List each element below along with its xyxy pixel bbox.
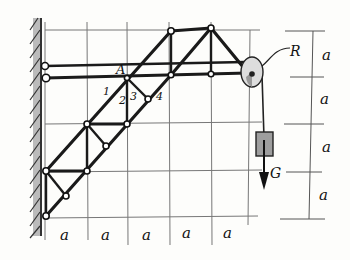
label-member-2: 2 (118, 94, 126, 107)
svg-text:a: a (223, 224, 232, 242)
label-pulley-R: R (289, 43, 301, 59)
svg-text:a: a (101, 226, 110, 244)
label-node-A: A (115, 62, 125, 77)
svg-text:a: a (182, 224, 191, 242)
svg-text:a: a (322, 46, 331, 64)
svg-text:a: a (322, 138, 331, 156)
truss-diagram: A 1 2 3 4 R G a a a a a a a a a (0, 0, 350, 260)
label-member-1: 1 (103, 85, 110, 98)
svg-text:a: a (60, 226, 69, 244)
svg-text:a: a (320, 90, 329, 108)
horizontal-dimensions: a a a a a (60, 224, 232, 244)
label-weight-G: G (270, 165, 281, 181)
wall (30, 18, 41, 238)
label-member-4: 4 (155, 90, 163, 103)
label-member-3: 3 (130, 90, 137, 103)
svg-text:a: a (319, 186, 328, 204)
diagram-canvas: A 1 2 3 4 R G a a a a a a a a a (0, 0, 350, 260)
svg-text:a: a (142, 226, 151, 244)
weight-block (256, 132, 273, 190)
pulley (241, 48, 290, 87)
pulley-axle (249, 71, 255, 77)
vertical-dimensions: a a a a (280, 31, 331, 219)
force-arrow-icon (259, 172, 269, 190)
